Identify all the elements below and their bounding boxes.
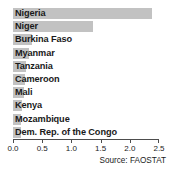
x-tick-mark	[13, 139, 14, 143]
x-tick-label: 1.0	[66, 144, 77, 153]
bar-row: Burkina Faso	[13, 33, 159, 46]
x-axis-line	[13, 139, 159, 140]
bar-row: Myanmar	[13, 47, 159, 60]
bar-category-label: Burkina Faso	[15, 33, 72, 46]
x-tick-label: 2.0	[124, 144, 135, 153]
x-tick-mark	[42, 139, 43, 143]
plot-area: NigeriaNigerBurkina FasoMyanmarTanzaniaC…	[13, 7, 159, 139]
chart-figure: NigeriaNigerBurkina FasoMyanmarTanzaniaC…	[0, 0, 170, 170]
bar-row: Nigeria	[13, 7, 159, 20]
x-tick-label: 2.5	[153, 144, 164, 153]
bar-row: Tanzania	[13, 60, 159, 73]
source-note: Source: FAOSTAT	[99, 156, 166, 165]
bar-category-label: Nigeria	[15, 7, 45, 20]
bar-category-label: Dem. Rep. of the Congo	[15, 126, 117, 139]
bar-row: Mozambique	[13, 113, 159, 126]
x-tick-mark	[158, 139, 159, 143]
bar-category-label: Tanzania	[15, 60, 53, 73]
x-tick-label: 0.0	[7, 144, 18, 153]
bar-category-label: Kenya	[15, 99, 42, 112]
x-tick-mark	[130, 139, 131, 143]
bar-category-label: Niger	[15, 20, 38, 33]
bar-category-label: Myanmar	[15, 47, 55, 60]
x-tick-label: 1.5	[95, 144, 106, 153]
bar-category-label: Mali	[15, 86, 32, 99]
bar-category-label: Cameroon	[15, 73, 60, 86]
x-tick-mark	[71, 139, 72, 143]
bar-row: Mali	[13, 86, 159, 99]
bar-row: Cameroon	[13, 73, 159, 86]
bar-row: Dem. Rep. of the Congo	[13, 126, 159, 139]
x-tick-label: 0.5	[37, 144, 48, 153]
bar-category-label: Mozambique	[15, 113, 70, 126]
bar-row: Niger	[13, 20, 159, 33]
x-tick-mark	[101, 139, 102, 143]
bar-row: Kenya	[13, 99, 159, 112]
